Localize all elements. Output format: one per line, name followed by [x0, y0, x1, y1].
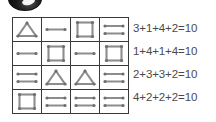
one-line-shape-icon — [15, 44, 39, 63]
table-row — [13, 42, 129, 66]
grid-cell-r3c2[interactable] — [42, 66, 71, 90]
grid-cell-r3c1[interactable] — [13, 66, 42, 90]
two-lines-shape-icon — [102, 68, 126, 87]
table-row — [13, 18, 129, 42]
table-row — [13, 66, 129, 90]
grid-cell-r4c4[interactable] — [100, 90, 129, 114]
grid-cell-r1c2[interactable] — [42, 18, 71, 42]
equation-row-3: 2+3+3+2=10 — [133, 63, 215, 86]
grid-cell-r1c3[interactable] — [71, 18, 100, 42]
grid-cell-r2c3[interactable] — [71, 42, 100, 66]
one-line-shape-icon — [44, 20, 68, 39]
one-line-shape-icon — [73, 44, 97, 63]
equation-row-1: 3+1+4+2=10 — [133, 17, 215, 40]
equation-row-2: 1+4+1+4=10 — [133, 40, 215, 63]
grid-cell-r2c4[interactable] — [100, 42, 129, 66]
two-lines-shape-icon — [102, 92, 126, 111]
triangle-shape-icon — [15, 20, 39, 39]
two-lines-shape-icon — [44, 92, 68, 111]
equation-list: 3+1+4+2=10 1+4+1+4=10 2+3+3+2=10 4+2+2+2… — [133, 17, 215, 109]
matchstick-puzzle-grid — [12, 17, 129, 114]
grid-cell-r4c3[interactable] — [71, 90, 100, 114]
grid-cell-r2c2[interactable] — [42, 42, 71, 66]
square-shape-icon — [102, 44, 126, 63]
grid-cell-r3c3[interactable] — [71, 66, 100, 90]
square-shape-icon — [73, 20, 97, 39]
shape-grid-body — [13, 18, 129, 114]
grid-cell-r1c4[interactable] — [100, 18, 129, 42]
dark-circular-logo — [8, 0, 42, 11]
grid-cell-r1c1[interactable] — [13, 18, 42, 42]
square-shape-icon — [15, 92, 39, 111]
shape-grid-table — [12, 17, 129, 114]
grid-cell-r2c1[interactable] — [13, 42, 42, 66]
triangle-shape-icon — [73, 68, 97, 87]
square-shape-icon — [44, 44, 68, 63]
two-lines-shape-icon — [73, 92, 97, 111]
two-lines-shape-icon — [15, 68, 39, 87]
grid-cell-r4c1[interactable] — [13, 90, 42, 114]
grid-cell-r4c2[interactable] — [42, 90, 71, 114]
table-row — [13, 90, 129, 114]
grid-cell-r3c4[interactable] — [100, 66, 129, 90]
equation-row-4: 4+2+2+2=10 — [133, 86, 215, 109]
two-lines-shape-icon — [102, 20, 126, 39]
triangle-shape-icon — [44, 68, 68, 87]
